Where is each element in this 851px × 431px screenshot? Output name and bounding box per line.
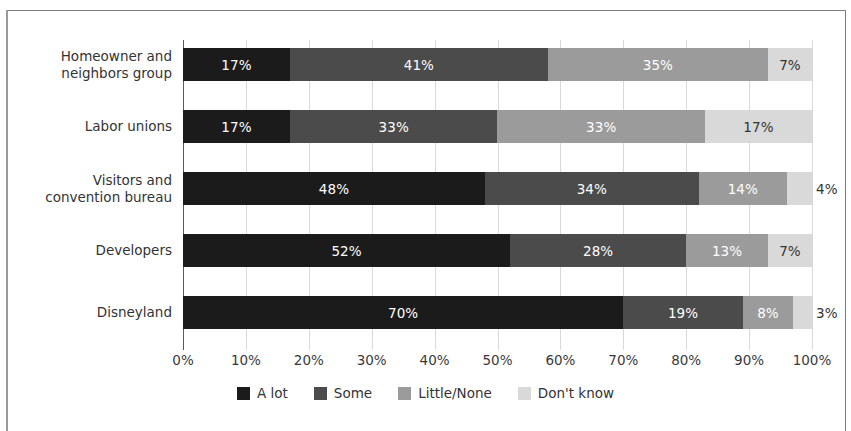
bar-segment: 7% <box>768 234 812 267</box>
segment-value-label: 13% <box>712 243 742 259</box>
legend-swatch-icon <box>398 387 411 400</box>
legend-label: A lot <box>257 385 288 401</box>
x-axis-tick-label: 70% <box>608 352 638 368</box>
segment-value-label: 7% <box>779 57 801 73</box>
category-label: Developers <box>4 242 172 259</box>
bar-segment: 8% <box>743 296 793 329</box>
x-axis-tick-label: 60% <box>545 352 575 368</box>
segment-value-label: 4% <box>816 181 838 197</box>
stacked-bar: 52%28%13%7% <box>183 234 812 267</box>
bar-segment: 34% <box>485 172 699 205</box>
x-axis-tick-label: 50% <box>482 352 512 368</box>
legend-item: Don't know <box>518 385 614 401</box>
category-label-line: Developers <box>4 242 172 259</box>
segment-value-label: 17% <box>221 57 251 73</box>
bar-segment: 41% <box>290 48 548 81</box>
x-axis-tick-label: 80% <box>671 352 701 368</box>
x-axis-tick-label: 20% <box>294 352 324 368</box>
segment-value-label: 33% <box>586 119 616 135</box>
category-label: Disneyland <box>4 304 172 321</box>
bar-segment: 35% <box>548 48 768 81</box>
category-label-line: Disneyland <box>4 304 172 321</box>
segment-value-label: 34% <box>577 181 607 197</box>
segment-value-label: 17% <box>221 119 251 135</box>
segment-value-label: 48% <box>319 181 349 197</box>
x-axis-tick-label: 30% <box>357 352 387 368</box>
gridline <box>812 40 813 350</box>
chart-legend: A lotSomeLittle/NoneDon't know <box>0 385 851 401</box>
segment-value-label: 33% <box>379 119 409 135</box>
category-label-line: neighbors group <box>4 65 172 82</box>
legend-swatch-icon <box>314 387 327 400</box>
bar-segment: 7% <box>768 48 812 81</box>
segment-value-label: 7% <box>779 243 801 259</box>
bar-segment: 33% <box>290 110 498 143</box>
bar-segment: 19% <box>623 296 743 329</box>
segment-value-label: 41% <box>404 57 434 73</box>
segment-value-label: 19% <box>668 305 698 321</box>
legend-swatch-icon <box>518 387 531 400</box>
segment-value-label: 17% <box>743 119 773 135</box>
legend-swatch-icon <box>237 387 250 400</box>
category-label-line: Visitors and <box>4 172 172 189</box>
legend-label: Some <box>334 385 372 401</box>
stacked-bar-chart-figure: Homeowner andneighbors groupLabor unions… <box>0 0 851 431</box>
bar-row: 17%41%35%7% <box>183 48 812 81</box>
category-label-line: convention bureau <box>4 189 172 206</box>
legend-item: Little/None <box>398 385 492 401</box>
legend-label: Little/None <box>418 385 492 401</box>
bar-row: 52%28%13%7% <box>183 234 812 267</box>
bar-segment: 70% <box>183 296 623 329</box>
legend-label: Don't know <box>538 385 614 401</box>
x-axis-tick-label: 10% <box>231 352 261 368</box>
plot-area: 17%41%35%7%17%33%33%17%48%34%14%4%52%28%… <box>183 40 812 350</box>
bar-segment: 52% <box>183 234 510 267</box>
bar-segment: 17% <box>183 48 290 81</box>
x-axis-tick-label: 100% <box>793 352 832 368</box>
segment-value-label: 3% <box>816 305 838 321</box>
segment-value-label: 35% <box>643 57 673 73</box>
category-label-line: Labor unions <box>4 118 172 135</box>
legend-item: Some <box>314 385 372 401</box>
bar-segment: 4% <box>787 172 812 205</box>
bar-segment: 48% <box>183 172 485 205</box>
bar-row: 70%19%8%3% <box>183 296 812 329</box>
bar-row: 48%34%14%4% <box>183 172 812 205</box>
bar-segment: 14% <box>699 172 787 205</box>
legend-item: A lot <box>237 385 288 401</box>
stacked-bar: 48%34%14%4% <box>183 172 812 205</box>
stacked-bar: 70%19%8%3% <box>183 296 812 329</box>
category-axis-labels: Homeowner andneighbors groupLabor unions… <box>0 40 172 350</box>
category-label: Homeowner andneighbors group <box>4 48 172 82</box>
stacked-bar: 17%41%35%7% <box>183 48 812 81</box>
bar-segment: 17% <box>705 110 812 143</box>
x-axis-ticks: 0%10%20%30%40%50%60%70%80%90%100% <box>183 352 812 374</box>
bar-segment: 33% <box>497 110 705 143</box>
segment-value-label: 14% <box>728 181 758 197</box>
bar-segment: 28% <box>510 234 686 267</box>
segment-value-label: 28% <box>583 243 613 259</box>
category-label-line: Homeowner and <box>4 48 172 65</box>
stacked-bar: 17%33%33%17% <box>183 110 812 143</box>
segment-value-label: 52% <box>331 243 361 259</box>
bar-segment: 13% <box>686 234 768 267</box>
segment-value-label: 8% <box>757 305 779 321</box>
x-axis-tick-label: 40% <box>420 352 450 368</box>
category-label: Visitors andconvention bureau <box>4 172 172 206</box>
category-label: Labor unions <box>4 118 172 135</box>
bar-segment: 17% <box>183 110 290 143</box>
bar-segment: 3% <box>793 296 812 329</box>
x-axis-tick-label: 90% <box>734 352 764 368</box>
bar-row: 17%33%33%17% <box>183 110 812 143</box>
segment-value-label: 70% <box>388 305 418 321</box>
x-axis-tick-label: 0% <box>172 352 193 368</box>
